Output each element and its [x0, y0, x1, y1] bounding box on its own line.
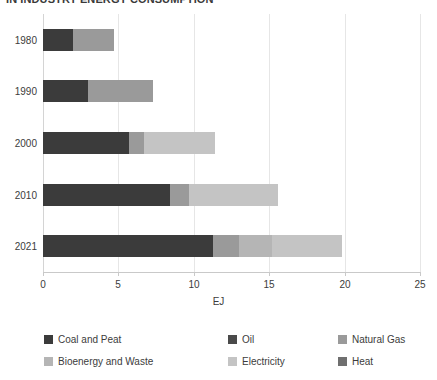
bar-segment	[144, 132, 215, 154]
legend-label: Natural Gas	[352, 334, 405, 345]
bar-segment	[170, 184, 190, 206]
legend-swatch-icon	[228, 335, 237, 344]
x-tick-label: 10	[188, 279, 199, 290]
legend-label: Heat	[352, 356, 373, 367]
bar-row	[0, 80, 437, 102]
legend-item[interactable]: Electricity	[228, 354, 285, 368]
legend-label: Bioenergy and Waste	[58, 356, 153, 367]
x-tick-label: 0	[40, 279, 46, 290]
legend-swatch-icon	[44, 357, 53, 366]
bar-segment	[129, 132, 144, 154]
legend-label: Electricity	[242, 356, 285, 367]
bar-row	[0, 184, 437, 206]
legend-label: Oil	[242, 334, 254, 345]
legend-item[interactable]: Oil	[228, 332, 254, 346]
x-tick-mark	[420, 272, 421, 276]
bar-segment	[189, 184, 278, 206]
legend-item[interactable]: Bioenergy and Waste	[44, 354, 153, 368]
bar-chart: IN INDUSTRY ENERGY CONSUMPTION 051015202…	[0, 0, 437, 380]
legend-item[interactable]: Heat	[338, 354, 373, 368]
bar-segment	[43, 29, 73, 51]
x-axis-line	[43, 272, 421, 273]
x-tick-label: 15	[263, 279, 274, 290]
x-tick-mark	[118, 272, 119, 276]
bar-segment	[213, 235, 239, 257]
bar-segment	[43, 184, 170, 206]
x-axis-label: EJ	[0, 296, 437, 307]
bar-segment	[239, 235, 272, 257]
bar-row	[0, 235, 437, 257]
bar-segment	[43, 80, 88, 102]
legend-swatch-icon	[44, 335, 53, 344]
x-tick-mark	[43, 272, 44, 276]
x-tick-label: 25	[414, 279, 425, 290]
x-tick-mark	[269, 272, 270, 276]
bar-segment	[73, 29, 114, 51]
bar-segment	[43, 235, 213, 257]
x-tick-label: 5	[115, 279, 121, 290]
legend-label: Coal and Peat	[58, 334, 121, 345]
legend-swatch-icon	[338, 357, 347, 366]
bar-segment	[272, 235, 341, 257]
legend-swatch-icon	[228, 357, 237, 366]
legend-item[interactable]: Coal and Peat	[44, 332, 121, 346]
chart-title: IN INDUSTRY ENERGY CONSUMPTION	[6, 0, 214, 4]
legend-swatch-icon	[338, 335, 347, 344]
bar-row	[0, 132, 437, 154]
legend-item[interactable]: Natural Gas	[338, 332, 405, 346]
x-tick-mark	[194, 272, 195, 276]
x-tick-mark	[345, 272, 346, 276]
x-tick-label: 20	[339, 279, 350, 290]
bar-row	[0, 29, 437, 51]
bar-segment	[88, 80, 153, 102]
chart-legend: Coal and PeatOilNatural GasBioenergy and…	[0, 328, 437, 376]
bar-segment	[43, 132, 129, 154]
